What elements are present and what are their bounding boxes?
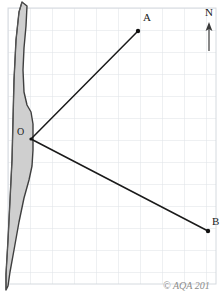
point-o-label: O [17,127,24,137]
north-label: N [205,7,213,18]
point-b-label: B [212,216,219,227]
point-a-label: A [143,12,151,23]
north-arrow-layer [0,0,224,297]
figure-canvas: A B O N © AQA 201 [0,0,224,297]
copyright-text: © AQA 201 [163,281,210,291]
